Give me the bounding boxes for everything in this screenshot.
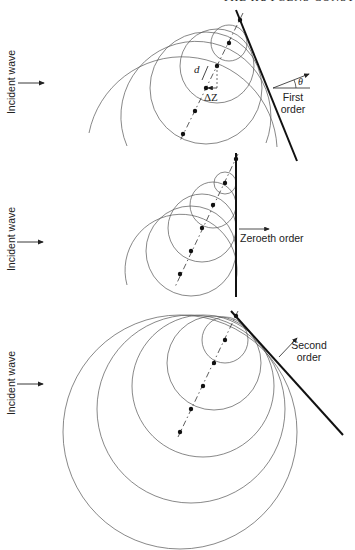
diffracted-wavefront [231,311,343,435]
d-spacing-label: d [194,63,200,75]
second-order-label-line1: Second [289,339,329,351]
angle-arc [294,80,296,88]
wavelet-arc [121,41,271,146]
incident-wave-label: Incident wave [5,42,17,122]
zeroeth-order-label: Zeroeth order [240,232,304,244]
first-order-label-line2: order [276,103,310,115]
panel-first-order [18,10,310,161]
incident-wave-label: Incident wave [5,343,17,423]
diffracted-wavefront [236,10,297,161]
delta-z-label: ΔZ [204,91,218,103]
panel-zeroeth-order [17,153,269,297]
incident-wave-label: Incident wave [5,199,17,279]
first-order-direction-arrow [273,74,309,88]
second-order-label-line2: order [289,351,329,363]
grating-axis [178,311,238,437]
d-indicator [202,66,208,80]
theta-label: θ [298,76,303,88]
first-order-label-line1: First [276,91,310,103]
